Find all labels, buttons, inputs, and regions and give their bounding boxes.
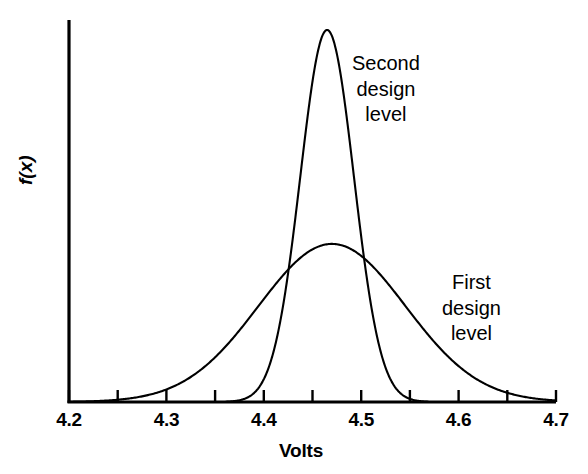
x-tick-label-3: 4.5: [348, 410, 374, 429]
x-axis-title-text: Volts: [279, 441, 323, 460]
annotation-first-design-level: First design level: [442, 270, 501, 347]
annotation-second-line-1: Second: [352, 51, 420, 77]
chart-plot-area: [0, 0, 588, 474]
x-tick-label-1: 4.3: [154, 410, 180, 429]
x-axis-title: Volts: [0, 441, 588, 460]
annotation-second-line-3: level: [352, 102, 420, 128]
x-tick-label-2: 4.4: [251, 410, 277, 429]
x-tick-label-0: 4.2: [56, 410, 82, 429]
annotation-first-line-3: level: [442, 321, 501, 347]
chart-figure: 4.2 4.3 4.4 4.5 4.6 4.7 Volts f(x) Secon…: [0, 0, 588, 474]
y-axis-title: f(x): [16, 155, 35, 185]
annotation-first-line-2: design: [442, 296, 501, 322]
annotation-second-line-2: design: [352, 77, 420, 103]
annotation-second-design-level: Second design level: [352, 51, 420, 128]
x-tick-label-4: 4.6: [446, 410, 472, 429]
annotation-first-line-1: First: [442, 270, 501, 296]
x-tick-label-5: 4.7: [543, 410, 569, 429]
